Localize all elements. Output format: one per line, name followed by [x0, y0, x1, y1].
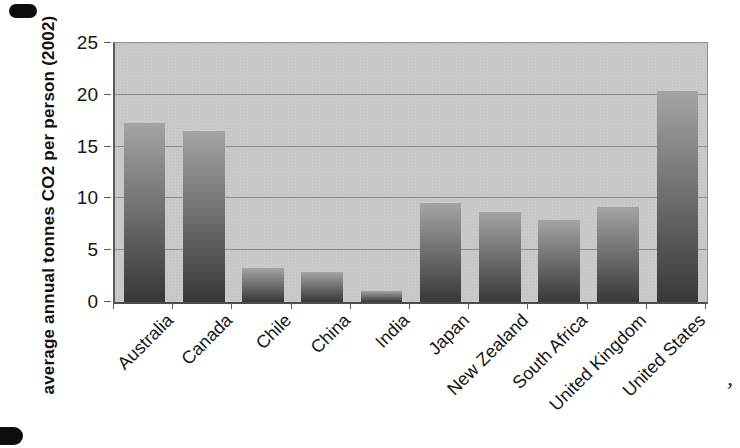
scan-artifact-bottom-left — [0, 427, 23, 445]
bar-canada — [183, 131, 224, 302]
x-tick-mark-10 — [705, 303, 706, 309]
bar-india — [361, 291, 402, 302]
bar-chile — [242, 268, 283, 302]
bar-chart-figure: average annual tonnes CO2 per person (20… — [0, 0, 740, 448]
y-tick-mark-10 — [104, 197, 111, 198]
x-tick-mark-1 — [172, 303, 173, 309]
bar-new-zealand — [479, 212, 520, 302]
y-tick-mark-25 — [104, 42, 111, 43]
y-tick-label-15: 15 — [56, 136, 98, 155]
x-tick-mark-5 — [409, 303, 410, 309]
x-label-text: Canada — [177, 310, 236, 369]
bar-united-states — [657, 91, 698, 302]
y-tick-mark-15 — [104, 146, 111, 147]
y-tick-label-5: 5 — [56, 240, 98, 259]
x-tick-mark-8 — [587, 303, 588, 309]
x-tick-mark-3 — [291, 303, 292, 309]
y-tick-mark-0 — [104, 301, 111, 302]
x-tick-mark-7 — [527, 303, 528, 309]
x-tick-mark-2 — [231, 303, 232, 309]
x-tick-mark-4 — [350, 303, 351, 309]
x-label-text: Japan — [424, 310, 474, 360]
bar-australia — [124, 123, 165, 302]
y-tick-label-25: 25 — [56, 33, 98, 52]
y-tick-mark-20 — [104, 94, 111, 95]
bar-united-kingdom — [597, 207, 638, 302]
x-label-text: China — [307, 310, 355, 358]
x-tick-mark-6 — [468, 303, 469, 309]
y-tick-label-0: 0 — [56, 292, 98, 311]
scan-artifact-quote-mark: ’ — [723, 378, 735, 406]
plot-area — [113, 42, 708, 304]
bar-south-africa — [538, 220, 579, 302]
scan-artifact-top-left — [9, 4, 37, 18]
x-label-text: Australia — [113, 310, 177, 374]
x-label-text: India — [372, 310, 414, 352]
y-tick-label-20: 20 — [56, 84, 98, 103]
gridline-20 — [115, 94, 707, 95]
y-tick-mark-5 — [104, 249, 111, 250]
bar-japan — [420, 203, 461, 302]
x-tick-mark-9 — [646, 303, 647, 309]
x-label-text: Chile — [252, 310, 296, 354]
y-tick-label-10: 10 — [56, 188, 98, 207]
bar-china — [301, 272, 342, 302]
x-tick-mark-0 — [113, 303, 114, 309]
